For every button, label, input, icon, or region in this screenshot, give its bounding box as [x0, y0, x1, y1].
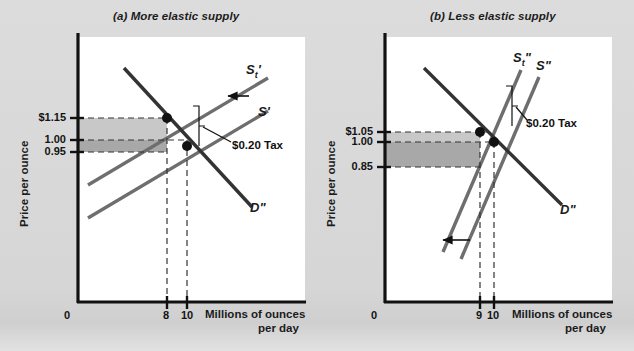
panel-b-ytick-label-100: 1.00 [325, 135, 373, 147]
panel-b-plot [0, 0, 634, 351]
panel-b-supply-with-tax-label: St" [513, 50, 531, 68]
panel-b-post-tax-equilibrium-point [475, 127, 485, 137]
panel-b-supply-label: S" [536, 58, 551, 73]
panel-b-x-axis-title-line2: per day [565, 322, 606, 334]
panel-b-buyer-burden-shade [385, 132, 480, 142]
panel-b-ytick-label-085: 0.85 [325, 160, 373, 172]
figure-root: (a) More elastic supply Price per ounce [0, 0, 634, 351]
panel-b-xtick-label-10: 10 [487, 309, 499, 321]
panel-b-x-axis-title-line1: Millions of ounces [512, 308, 612, 320]
panel-b-seller-burden-shade [385, 142, 480, 167]
panel-b-pre-tax-equilibrium-point [489, 137, 499, 147]
panel-b-origin-label: 0 [371, 309, 377, 321]
panel-b-xtick-label-9: 9 [476, 309, 482, 321]
panel-b-demand-label: D" [560, 202, 576, 217]
panel-b-tax-annotation: $0.20 Tax [526, 117, 577, 129]
